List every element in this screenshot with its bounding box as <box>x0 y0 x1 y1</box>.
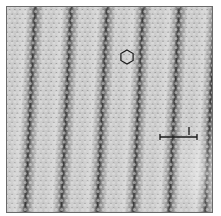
hexagon-marker-icon <box>121 50 133 64</box>
scale-bar <box>160 127 197 140</box>
annotation-layer <box>0 0 221 216</box>
